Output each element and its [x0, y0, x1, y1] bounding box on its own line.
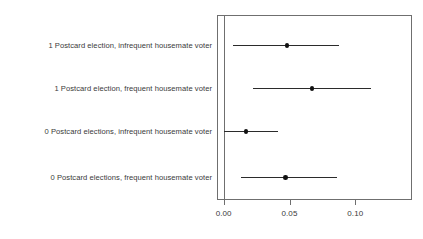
category-label-0-postcard-infrequent: 0 Postcard elections, infrequent housema…: [45, 127, 212, 136]
point-estimate-1: [285, 43, 290, 48]
x-axis-tick-2: [355, 200, 356, 205]
category-label-1-postcard-infrequent: 1 Postcard election, infrequent housemat…: [48, 41, 212, 50]
plot-panel: [217, 15, 412, 200]
confidence-interval-4: [241, 177, 337, 178]
x-axis-label-0: 0.00: [204, 209, 244, 218]
x-axis-label-1: 0.05: [270, 209, 310, 218]
coefficient-plot-figure: 1 Postcard election, infrequent housemat…: [0, 0, 423, 239]
point-estimate-4: [283, 175, 288, 180]
category-label-0-postcard-frequent: 0 Postcard elections, frequent housemate…: [51, 173, 212, 182]
x-axis-tick-0: [224, 200, 225, 205]
category-label-1-postcard-frequent: 1 Postcard election, frequent housemate …: [54, 84, 212, 93]
x-axis-label-2: 0.10: [335, 209, 375, 218]
point-estimate-3: [244, 129, 249, 134]
point-estimate-2: [310, 86, 315, 91]
x-axis-tick-1: [290, 200, 291, 205]
zero-reference-line: [224, 15, 225, 200]
confidence-interval-3: [224, 131, 278, 132]
